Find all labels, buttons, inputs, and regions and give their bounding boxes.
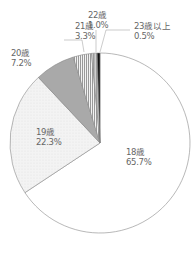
label-19-name: 19歳 bbox=[36, 127, 62, 137]
label-23plus-name: 23歳以上 bbox=[134, 21, 170, 31]
label-21-value: 3.3% bbox=[75, 31, 95, 41]
label-22-name: 22歳 bbox=[88, 10, 108, 20]
label-18-name: 18歳 bbox=[126, 147, 152, 157]
label-23plus: 23歳以上 0.5% bbox=[134, 21, 170, 41]
label-23plus-value: 0.5% bbox=[134, 31, 170, 41]
label-20-value: 7.2% bbox=[11, 58, 31, 68]
label-20: 20歳 7.2% bbox=[11, 48, 31, 68]
label-22-value: 1.0% bbox=[88, 20, 108, 30]
label-18-value: 65.7% bbox=[126, 157, 152, 167]
label-20-name: 20歳 bbox=[11, 48, 31, 58]
label-22: 22歳 1.0% bbox=[88, 10, 108, 30]
label-18: 18歳 65.7% bbox=[126, 147, 152, 167]
label-19-value: 22.3% bbox=[36, 137, 62, 147]
label-19: 19歳 22.3% bbox=[36, 127, 62, 147]
